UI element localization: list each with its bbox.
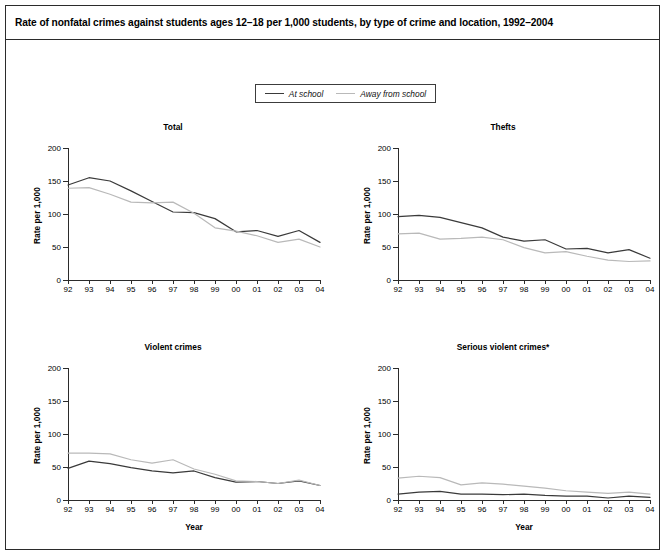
legend-entry: At school [265, 89, 323, 99]
series-line [68, 188, 320, 247]
series-layer [68, 368, 321, 501]
x-axis-tick-label: 98 [190, 285, 199, 294]
legend-label: Away from school [360, 89, 426, 99]
y-axis-tick-label: 0 [387, 276, 391, 285]
chart-panel: Total05010015020092939495969798990001020… [26, 122, 330, 320]
figure-container: Rate of nonfatal crimes against students… [5, 5, 660, 550]
legend-entry: Away from school [336, 89, 426, 99]
x-axis-title: Year [398, 522, 650, 532]
plot-area: 05010015020092939495969798990001020304 [68, 148, 320, 280]
x-axis-tick-label: 00 [562, 505, 571, 514]
y-axis-tick-label: 200 [378, 364, 391, 373]
x-axis-tick-label: 93 [415, 285, 424, 294]
chart-legend: At schoolAway from school [255, 84, 436, 103]
plot-area: 05010015020092939495969798990001020304 [68, 368, 320, 500]
x-axis-tick-label: 99 [541, 505, 550, 514]
x-axis-tick-label: 94 [436, 285, 445, 294]
x-axis-tick-label: 01 [253, 505, 262, 514]
x-axis-tick-label: 92 [394, 285, 403, 294]
y-axis-tick-label: 150 [48, 177, 61, 186]
panel-title: Total [26, 122, 320, 132]
series-layer [398, 368, 651, 501]
series-layer [398, 148, 651, 281]
y-axis-tick-label: 150 [48, 397, 61, 406]
x-axis-tick-label: 95 [457, 505, 466, 514]
series-line [68, 178, 320, 243]
x-axis-tick-label: 98 [520, 505, 529, 514]
y-axis-tick-label: 100 [378, 430, 391, 439]
x-axis-tick-label: 94 [436, 505, 445, 514]
figure-title-bar: Rate of nonfatal crimes against students… [6, 6, 659, 40]
x-axis-tick-label: 01 [253, 285, 262, 294]
x-axis-tick-label: 03 [625, 285, 634, 294]
x-axis-tick-label: 97 [499, 285, 508, 294]
page-title: Rate of nonfatal crimes against students… [6, 17, 553, 28]
x-axis-tick-label: 01 [583, 285, 592, 294]
x-axis-tick-label: 04 [646, 505, 655, 514]
y-axis-title: Rate per 1,000 [32, 407, 42, 464]
x-axis-tick-label: 02 [274, 285, 283, 294]
y-axis-tick-label: 0 [387, 496, 391, 505]
x-axis-tick-label: 92 [64, 285, 73, 294]
y-axis-tick-label: 50 [382, 243, 391, 252]
panel-title: Thefts [356, 122, 650, 132]
x-axis-tick-label: 04 [646, 285, 655, 294]
legend-label: At school [289, 89, 323, 99]
x-axis-tick-label: 93 [415, 505, 424, 514]
x-axis-tick-label: 03 [295, 285, 304, 294]
y-axis-title: Rate per 1,000 [32, 187, 42, 244]
x-axis-tick-label: 94 [106, 505, 115, 514]
y-axis-tick-label: 150 [378, 397, 391, 406]
plot-area: 05010015020092939495969798990001020304 [398, 148, 650, 280]
x-axis-tick-label: 02 [604, 505, 613, 514]
x-axis-tick-label: 00 [232, 285, 241, 294]
y-axis-tick-label: 50 [382, 463, 391, 472]
y-axis-tick-label: 100 [48, 430, 61, 439]
y-axis-tick-label: 0 [57, 496, 61, 505]
chart-panel: Violent crimes05010015020092939495969798… [26, 342, 330, 540]
x-axis-tick-label: 96 [148, 505, 157, 514]
x-axis-tick-label: 96 [478, 285, 487, 294]
x-axis-tick-label: 98 [520, 285, 529, 294]
series-line [68, 453, 320, 485]
x-axis-tick-label: 99 [541, 285, 550, 294]
x-axis-tick-label: 01 [583, 505, 592, 514]
x-axis-tick-label: 97 [169, 505, 178, 514]
x-axis-tick-label: 03 [295, 505, 304, 514]
legend-line-swatch [265, 93, 284, 94]
x-axis-tick-label: 92 [394, 505, 403, 514]
y-axis-tick-label: 100 [48, 210, 61, 219]
x-axis-tick-label: 97 [169, 285, 178, 294]
x-axis-tick-label: 98 [190, 505, 199, 514]
panel-title: Violent crimes [26, 342, 320, 352]
x-axis-tick-label: 93 [85, 505, 94, 514]
x-axis-title: Year [68, 522, 320, 532]
x-axis-tick-label: 94 [106, 285, 115, 294]
legend-line-swatch [336, 93, 355, 94]
x-axis-tick-label: 95 [127, 285, 136, 294]
x-axis-tick-label: 02 [604, 285, 613, 294]
y-axis-tick-label: 0 [57, 276, 61, 285]
x-axis-tick-label: 96 [148, 285, 157, 294]
x-axis-tick-label: 95 [127, 505, 136, 514]
y-axis-tick-label: 50 [52, 463, 61, 472]
x-axis-tick-label: 92 [64, 505, 73, 514]
chart-panel: Thefts0501001502009293949596979899000102… [356, 122, 660, 320]
y-axis-tick-label: 100 [378, 210, 391, 219]
x-axis-tick-label: 03 [625, 505, 634, 514]
y-axis-tick-label: 200 [378, 144, 391, 153]
series-line [398, 491, 650, 498]
x-axis-tick-label: 99 [211, 505, 220, 514]
x-axis-tick-label: 04 [316, 285, 325, 294]
plot-area: 05010015020092939495969798990001020304 [398, 368, 650, 500]
x-axis-tick-label: 96 [478, 505, 487, 514]
x-axis-tick-label: 95 [457, 285, 466, 294]
x-axis-tick-label: 97 [499, 505, 508, 514]
x-axis-tick-label: 04 [316, 505, 325, 514]
x-axis-tick-label: 93 [85, 285, 94, 294]
y-axis-tick-label: 200 [48, 144, 61, 153]
y-axis-title: Rate per 1,000 [362, 407, 372, 464]
y-axis-tick-label: 50 [52, 243, 61, 252]
series-layer [68, 148, 321, 281]
x-axis-tick-label: 00 [562, 285, 571, 294]
